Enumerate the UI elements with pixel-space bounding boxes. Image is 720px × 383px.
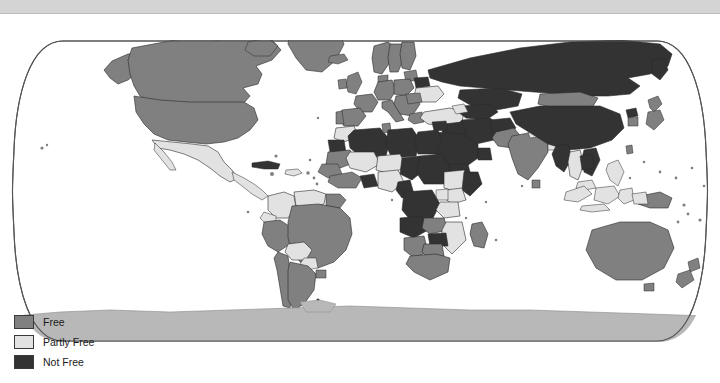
region-hawaii-2 — [46, 144, 48, 146]
region-belarus — [414, 77, 430, 88]
region-palau — [629, 177, 631, 179]
region-galapagos — [247, 211, 250, 214]
region-lesser-antilles-1 — [313, 177, 316, 180]
region-uruguay — [316, 270, 326, 278]
region-sri-lanka — [532, 180, 540, 188]
page-root: Free Partly Free Not Free — [0, 0, 720, 383]
region-mauritius — [495, 239, 498, 242]
legend-label-free: Free — [43, 315, 65, 329]
region-taiwan — [626, 145, 633, 154]
legend-item-not-free[interactable]: Not Free — [14, 352, 164, 372]
region-azores — [317, 117, 319, 119]
region-fiji — [698, 218, 701, 221]
region-uganda — [436, 189, 448, 200]
region-egypt — [414, 130, 442, 154]
region-vanuatu — [687, 213, 690, 216]
legend-swatch-free — [14, 315, 34, 329]
region-carpathians — [406, 93, 422, 104]
region-ireland — [338, 79, 347, 89]
region-micronesia-1 — [659, 171, 662, 174]
region-north-korea — [626, 108, 638, 118]
map-legend: Free Partly Free Not Free — [14, 312, 164, 372]
region-solomon-islands — [682, 203, 685, 206]
region-tasmania — [644, 283, 654, 291]
region-kiribati — [703, 185, 706, 188]
region-comoros — [465, 217, 467, 219]
region-sao-tome — [391, 199, 393, 201]
legend-swatch-partly-free — [14, 335, 34, 349]
region-laos-cambodia — [580, 155, 594, 170]
region-guam — [643, 161, 646, 164]
region-seychelles — [485, 201, 487, 203]
region-marshall-islands — [691, 167, 694, 170]
region-puerto-rico — [306, 171, 310, 175]
region-maldives — [521, 185, 523, 187]
region-jamaica — [270, 172, 274, 176]
legend-item-free[interactable]: Free — [14, 312, 164, 332]
legend-label-partly-free: Partly Free — [43, 335, 94, 349]
region-micronesia-2 — [675, 177, 678, 180]
region-bahamas — [274, 154, 277, 157]
region-south-korea — [628, 117, 638, 126]
region-oman — [478, 148, 492, 160]
legend-item-partly-free[interactable]: Partly Free — [14, 332, 164, 352]
region-cape-verde — [309, 159, 312, 162]
region-syria — [432, 121, 448, 131]
region-western-sahara — [328, 140, 346, 152]
region-hawaii — [40, 146, 43, 149]
region-papua-west — [632, 192, 648, 204]
region-new-caledonia — [677, 221, 680, 224]
region-lesser-antilles-2 — [316, 183, 319, 186]
legend-label-not-free: Not Free — [43, 355, 84, 369]
legend-swatch-not-free — [14, 355, 34, 369]
region-canada-arctic — [198, 27, 244, 40]
